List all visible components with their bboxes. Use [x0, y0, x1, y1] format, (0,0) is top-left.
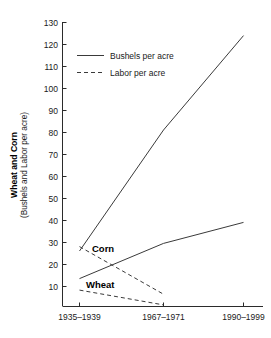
annotation-corn: Corn [92, 243, 114, 254]
y-tick-label-110: 110 [44, 62, 58, 72]
chart-legend: Bushels per acre Labor per acre [77, 51, 174, 78]
y-tick-label-50: 50 [49, 194, 59, 204]
y-tick-label-80: 80 [49, 128, 59, 138]
x-tick-label-2: 1967–1971 [142, 312, 185, 322]
y-tick-label-130: 130 [44, 18, 58, 28]
y-tick-marks [63, 23, 67, 287]
chart-container: 130 120 110 100 90 80 70 60 50 40 30 20 … [0, 0, 271, 338]
y-tick-label-30: 30 [49, 238, 59, 248]
y-axis-subtitle: (Bushels and Labor per acre) [20, 112, 29, 218]
line-chart: 130 120 110 100 90 80 70 60 50 40 30 20 … [0, 0, 271, 338]
x-tick-label-1: 1935–1939 [58, 312, 101, 322]
y-tick-label-40: 40 [49, 216, 59, 226]
y-axis-title: Wheat and Corn [9, 132, 19, 198]
y-tick-label-100: 100 [44, 84, 58, 94]
legend-label-labor: Labor per acre [110, 68, 166, 78]
legend-label-bushels: Bushels per acre [110, 51, 174, 61]
y-tick-label-10: 10 [49, 282, 59, 292]
y-tick-label-120: 120 [44, 40, 58, 50]
y-tick-label-20: 20 [49, 260, 59, 270]
y-tick-label-90: 90 [49, 106, 59, 116]
x-tick-label-3: 1990–1999 [222, 312, 265, 322]
x-tick-marks [80, 303, 244, 307]
y-tick-label-70: 70 [49, 150, 59, 160]
y-tick-label-60: 60 [49, 172, 59, 182]
annotation-wheat: Wheat [86, 279, 115, 290]
series-wheat-labor [80, 290, 164, 305]
